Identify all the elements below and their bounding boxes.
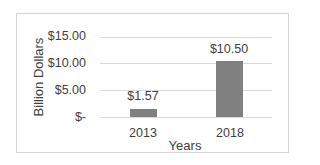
gridline-10 xyxy=(100,63,272,64)
y-axis-title: Billion Dollars xyxy=(32,22,46,132)
x-axis-title: Years xyxy=(155,139,215,153)
ytick-label: $5.00 xyxy=(44,83,86,97)
ytick-label: $10.00 xyxy=(44,56,86,70)
data-label-2018: $10.50 xyxy=(199,42,259,56)
ytick-label: $- xyxy=(44,110,86,124)
bar-2013 xyxy=(130,109,157,117)
xtick-label-2013: 2013 xyxy=(118,126,168,140)
xtick-label-2018: 2018 xyxy=(205,126,255,140)
gridline-15 xyxy=(100,37,272,38)
ytick-label: $15.00 xyxy=(44,29,86,43)
gridline-0 xyxy=(100,117,272,118)
data-label-2013: $1.57 xyxy=(113,89,173,103)
bar-2018 xyxy=(216,61,243,117)
